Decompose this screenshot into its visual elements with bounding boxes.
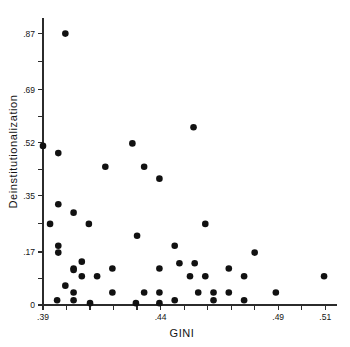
data-point xyxy=(156,289,163,296)
data-point xyxy=(87,300,94,307)
x-tick-label: .51 xyxy=(319,312,331,322)
data-point xyxy=(273,289,280,296)
y-axis-title: Deinstitutionalization xyxy=(7,94,19,208)
data-point xyxy=(176,260,183,267)
data-point xyxy=(187,273,194,280)
data-point-group xyxy=(40,30,328,306)
data-point xyxy=(241,297,248,304)
y-tick-label: .87 xyxy=(23,29,35,39)
data-point xyxy=(141,164,148,171)
y-tick-label: .35 xyxy=(23,191,35,201)
data-point xyxy=(202,221,209,228)
data-point xyxy=(134,232,141,239)
data-point xyxy=(171,297,178,304)
data-point xyxy=(156,175,163,182)
data-point xyxy=(55,242,62,249)
data-point xyxy=(79,273,86,280)
data-point xyxy=(79,258,86,265)
data-point xyxy=(54,297,61,304)
y-tick-label: .52 xyxy=(23,138,35,148)
x-axis-title: GINI xyxy=(169,327,194,339)
data-point xyxy=(202,273,209,280)
data-point xyxy=(40,143,47,150)
plot-canvas: 0.17.35.52.69.87.39.44.49.51GINIDeinstit… xyxy=(0,0,350,347)
data-point xyxy=(55,201,62,208)
data-point xyxy=(191,260,198,267)
data-point xyxy=(195,289,202,296)
y-tick-label: .17 xyxy=(23,247,35,257)
data-point xyxy=(55,150,62,157)
data-point xyxy=(62,30,69,37)
data-point xyxy=(321,273,328,280)
data-point xyxy=(55,249,62,256)
data-point xyxy=(109,289,116,296)
y-tick-label: 0 xyxy=(30,300,35,310)
data-point xyxy=(133,300,140,307)
y-tick-label: .69 xyxy=(23,85,35,95)
x-tick-label: .49 xyxy=(272,312,284,322)
data-point xyxy=(226,289,233,296)
data-point xyxy=(102,164,109,171)
data-point xyxy=(190,124,197,131)
data-point xyxy=(86,221,93,228)
data-point xyxy=(109,265,116,272)
scatter-plot-figure: 0.17.35.52.69.87.39.44.49.51GINIDeinstit… xyxy=(0,0,350,347)
axis-lines xyxy=(43,18,337,305)
x-tick-label: .44 xyxy=(155,312,167,322)
data-point xyxy=(226,265,233,272)
data-point xyxy=(156,265,163,272)
data-point xyxy=(62,282,69,289)
data-point xyxy=(210,289,217,296)
data-point xyxy=(210,297,217,304)
data-point xyxy=(70,289,77,296)
data-point xyxy=(70,209,77,216)
data-point xyxy=(70,267,77,274)
data-point xyxy=(94,273,101,280)
data-point xyxy=(171,242,178,249)
data-point xyxy=(241,273,248,280)
data-point xyxy=(141,289,148,296)
data-point xyxy=(156,300,163,307)
data-point xyxy=(251,249,258,256)
x-tick-label: .39 xyxy=(37,312,49,322)
data-point xyxy=(129,140,136,147)
data-point xyxy=(47,221,54,228)
data-point xyxy=(70,297,77,304)
